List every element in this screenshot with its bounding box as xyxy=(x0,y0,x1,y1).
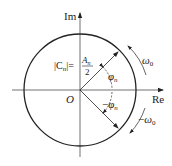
real-axis-label: Re xyxy=(152,93,164,105)
svg-text:An: An xyxy=(81,55,91,66)
imag-axis-label: Im xyxy=(64,10,77,22)
origin-label: O xyxy=(66,93,74,105)
phasor-diagram: Im Re O |Cn|= An 2 φn −φn ω0 −ω0 xyxy=(0,0,172,166)
lower-angle-label: −φn xyxy=(102,98,118,112)
svg-text:|Cn|=: |Cn|= xyxy=(54,60,74,73)
svg-text:2: 2 xyxy=(85,67,90,77)
upper-rotation-label: ω0 xyxy=(142,54,154,68)
lower-rotation-label: −ω0 xyxy=(138,113,156,127)
magnitude-label: |Cn|= An 2 xyxy=(54,55,93,77)
upper-angle-label: φn xyxy=(108,70,118,84)
